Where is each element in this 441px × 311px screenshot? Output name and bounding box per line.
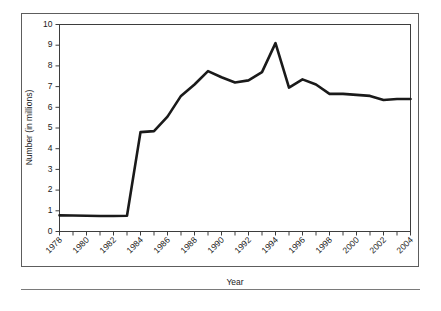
y-tick-label: 10 <box>43 19 53 29</box>
x-tick-label: 1986 <box>151 235 172 256</box>
x-tick-label: 2002 <box>367 235 388 256</box>
x-tick-label: 2000 <box>340 235 361 256</box>
x-tick-label: 1990 <box>205 235 226 256</box>
y-tick-label: 1 <box>48 205 53 215</box>
x-axis-title: Year <box>226 277 243 287</box>
y-tick-label: 5 <box>48 122 53 132</box>
x-tick-marks <box>60 232 411 236</box>
data-series-line <box>60 43 411 216</box>
line-chart: 012345678910 197819801982198419861988199… <box>0 0 441 311</box>
plot-area-frame <box>60 25 411 232</box>
y-tick-label: 0 <box>48 226 53 236</box>
figure-root: 012345678910 197819801982198419861988199… <box>0 0 441 311</box>
x-tick-label: 1996 <box>286 235 307 256</box>
x-tick-label: 1994 <box>259 235 280 256</box>
y-axis-title: Number (in millions) <box>24 90 34 166</box>
x-tick-label: 1978 <box>43 235 64 256</box>
x-tick-label: 1980 <box>70 235 91 256</box>
x-tick-label: 1998 <box>313 235 334 256</box>
y-tick-label: 7 <box>48 81 53 91</box>
y-tick-labels: 012345678910 <box>43 19 53 236</box>
x-tick-label: 1992 <box>232 235 253 256</box>
x-tick-label: 2004 <box>394 235 415 256</box>
y-tick-marks <box>56 25 60 232</box>
y-tick-label: 6 <box>48 102 53 112</box>
x-tick-labels: 1978198019821984198619881990199219941996… <box>43 235 415 256</box>
x-tick-label: 1984 <box>124 235 145 256</box>
y-tick-label: 3 <box>48 164 53 174</box>
y-tick-label: 4 <box>48 143 53 153</box>
x-axis: 1978198019821984198619881990199219941996… <box>43 232 415 256</box>
y-tick-label: 9 <box>48 39 53 49</box>
y-axis: 012345678910 <box>43 19 59 236</box>
y-tick-label: 2 <box>48 184 53 194</box>
x-tick-label: 1988 <box>178 235 199 256</box>
x-tick-label: 1982 <box>97 235 118 256</box>
y-tick-label: 8 <box>48 60 53 70</box>
